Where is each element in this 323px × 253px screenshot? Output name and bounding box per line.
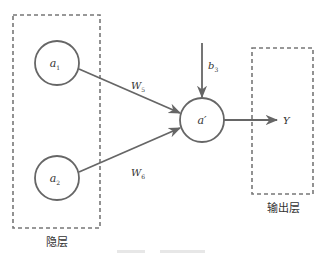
node-a1: a1 bbox=[35, 41, 79, 85]
node-a2-circle bbox=[35, 156, 79, 200]
svg-text:b3: b3 bbox=[208, 60, 218, 73]
hidden-layer-label: 隐层 bbox=[46, 236, 68, 249]
edge-bias-subscript: 3 bbox=[214, 66, 218, 73]
neuron-diagram: 隐层 输出层 a1 a2 a′ W5 W6 b3 Y bbox=[0, 0, 323, 253]
node-a-prime: a′ bbox=[180, 98, 224, 142]
edge-w5 bbox=[79, 69, 180, 113]
node-a2: a2 bbox=[35, 156, 79, 200]
edge-output-label: Y bbox=[283, 115, 291, 126]
svg-text:W6: W6 bbox=[131, 167, 145, 180]
output-layer-group: 输出层 bbox=[252, 48, 313, 215]
node-a1-subscript: 1 bbox=[56, 64, 60, 71]
output-layer-label: 输出层 bbox=[267, 201, 300, 215]
edge-w6 bbox=[79, 128, 180, 172]
svg-text:W5: W5 bbox=[131, 80, 145, 93]
edge-w6-subscript: 6 bbox=[141, 173, 145, 180]
node-a1-circle bbox=[35, 41, 79, 85]
node-a2-subscript: 2 bbox=[56, 179, 60, 186]
node-a-prime-label: a′ bbox=[197, 114, 207, 127]
edge-w5-subscript: 5 bbox=[141, 86, 145, 93]
